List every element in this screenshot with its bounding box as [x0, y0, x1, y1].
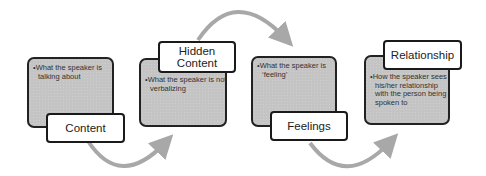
step-title: Hidden Content — [172, 45, 222, 70]
arrow-hidden-to-feelings — [198, 12, 285, 40]
arrow-content-to-hidden — [88, 141, 165, 166]
step-description: •What the speaker is ‘feeling’ — [256, 62, 340, 79]
arrow-feelings-to-relationship — [310, 142, 390, 166]
step-description: •What the speaker is talking about — [32, 64, 116, 81]
step-label-hidden-content: Hidden Content — [158, 41, 236, 73]
step-description: •What the speaker is not verbalizing — [144, 76, 230, 93]
step-label-content: Content — [46, 113, 125, 143]
step-label-feelings: Feelings — [270, 111, 348, 141]
step-description: •How the speaker sees his/her relationsh… — [369, 73, 451, 107]
step-label-relationship: Relationship — [383, 40, 462, 70]
